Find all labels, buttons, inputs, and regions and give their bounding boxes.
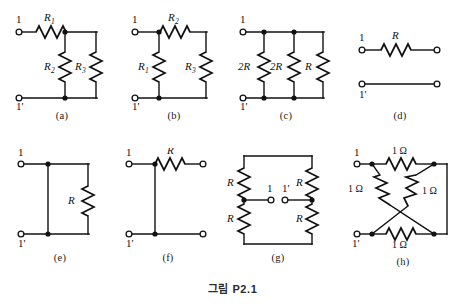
junction-node (152, 231, 157, 236)
resistor-label-r1: R (137, 60, 145, 72)
resistor-label-r: R (67, 194, 75, 206)
terminal-1 (268, 197, 274, 203)
circuit-b-svg: 1 1' R 2 R 1 R 3 (124, 10, 224, 110)
resistor-label-r: R (166, 148, 174, 156)
terminal-label-1: 1 (354, 146, 360, 158)
terminal-label-1-prime: 1' (132, 100, 140, 110)
resistor-label-right-diagonal: 1 Ω (422, 185, 437, 196)
circuit-a-svg: 1 1' R 1 R 2 R 3 (8, 10, 116, 110)
circuit-h-svg: 1 1' 1 Ω 1 Ω 1 Ω 1 Ω (346, 144, 460, 252)
resistor-label-r-right: R (304, 60, 312, 72)
resistor-sub-r2: 2 (51, 66, 55, 75)
terminal-label-1: 1 (126, 148, 132, 158)
terminal-label-1-prime: 1' (16, 100, 24, 110)
junction-node (261, 29, 266, 34)
terminal-label-1: 1 (267, 182, 273, 194)
terminal-1 (132, 29, 138, 35)
junction-node (291, 29, 296, 34)
resistor-label-bottom-left: R (226, 212, 234, 224)
terminal-1 (126, 161, 132, 167)
terminal-label-1-prime: 1' (18, 237, 26, 249)
junction-node (45, 231, 50, 236)
circuit-diagram-g: 1 1' R R R R (g) (226, 148, 330, 266)
junction-node (241, 197, 246, 202)
resistor-label-top: 1 Ω (392, 145, 407, 156)
terminal-right-bottom (434, 81, 440, 87)
circuit-diagram-f: 1 1' R (f) (118, 148, 218, 266)
circuit-diagram-c: 1 1' 2R 2R R (c) (232, 10, 340, 122)
resistor-label-r3: R (74, 60, 82, 72)
resistor-label-r: R (391, 29, 399, 41)
resistor-label-r3: R (184, 60, 192, 72)
resistor-label-r2: R (167, 11, 175, 23)
resistor-sub-r2: 2 (175, 17, 179, 26)
circuit-c-svg: 1 1' 2R 2R R (232, 10, 340, 110)
resistor-sub-r1: 1 (145, 66, 149, 75)
terminal-label-1-prime: 1' (126, 237, 134, 249)
resistor-label-top-right: R (295, 176, 303, 188)
junction-node (152, 161, 157, 166)
circuit-f-svg: 1 1' R (118, 148, 218, 252)
terminal-label-1-prime: 1' (352, 237, 360, 249)
junction-node (45, 161, 50, 166)
terminal-1 (354, 161, 360, 167)
resistor-sub-r3: 3 (191, 66, 196, 75)
resistor-label-r1: R (43, 11, 51, 23)
terminal-1 (359, 47, 365, 53)
subfigure-caption-b: (b) (124, 110, 224, 121)
resistor-label-2r-left: 2R (238, 60, 251, 72)
junction-node (369, 231, 374, 236)
terminal-1 (240, 29, 246, 35)
circuit-diagram-a: 1 1' R 1 R 2 R 3 (a) (8, 10, 116, 122)
junction-node (369, 161, 374, 166)
subfigure-caption-h: (h) (346, 256, 460, 267)
terminal-1-prime (359, 81, 365, 87)
terminal-1 (16, 29, 22, 35)
circuit-e-svg: 1 1' R (10, 148, 110, 252)
resistor-label-bottom-right: R (295, 212, 303, 224)
junction-node (431, 161, 436, 166)
resistor-label-2r-middle: 2R (270, 60, 283, 72)
subfigure-caption-g: (g) (226, 252, 330, 263)
junction-node (291, 95, 296, 100)
terminal-right-top (200, 161, 206, 167)
resistor-label-bottom: 1 Ω (392, 239, 407, 250)
circuit-diagram-h: 1 1' 1 Ω 1 Ω 1 Ω 1 Ω (h) (346, 144, 460, 266)
subfigure-caption-c: (c) (232, 110, 340, 121)
terminal-label-1-prime: 1' (359, 88, 367, 100)
circuit-diagram-e: 1 1' R (e) (10, 148, 110, 266)
terminal-1-prime (282, 197, 288, 203)
junction-node (261, 95, 266, 100)
figure-sheet: 1 1' R 1 R 2 R 3 (a) (0, 0, 465, 308)
subfigure-caption-f: (f) (118, 252, 218, 263)
terminal-label-1: 1 (18, 148, 24, 158)
terminal-label-1: 1 (359, 31, 365, 43)
resistor-sub-r1: 1 (51, 17, 55, 26)
junction-node (156, 29, 161, 34)
terminal-label-1: 1 (132, 13, 138, 25)
circuit-d-svg: 1 1' R (348, 10, 452, 110)
figure-caption: 그림 P2.1 (0, 280, 465, 296)
resistor-label-top-left: R (226, 176, 234, 188)
circuit-diagram-b: 1 1' R 2 R 1 R 3 (b) (124, 10, 224, 122)
junction-node (431, 231, 436, 236)
terminal-label-1: 1 (240, 13, 246, 25)
junction-node (62, 29, 67, 34)
subfigure-caption-a: (a) (8, 110, 116, 121)
subfigure-caption-e: (e) (10, 252, 110, 263)
resistor-sub-r3: 3 (81, 66, 86, 75)
terminal-label-1-prime: 1' (282, 182, 290, 194)
junction-node (62, 95, 67, 100)
terminal-right-bottom (200, 231, 206, 237)
resistor-label-r2: R (43, 60, 51, 72)
junction-node (309, 197, 314, 202)
circuit-diagram-d: 1 1' R (d) (348, 10, 452, 122)
terminal-right-top (434, 47, 440, 53)
resistor-label-left-diagonal: 1 Ω (348, 183, 363, 194)
terminal-label-1-prime: 1' (240, 100, 248, 110)
junction-node (156, 95, 161, 100)
terminal-label-1: 1 (16, 13, 22, 25)
terminal-1 (18, 161, 24, 167)
subfigure-caption-d: (d) (348, 110, 452, 121)
circuit-g-svg: 1 1' R R R R (226, 148, 330, 252)
